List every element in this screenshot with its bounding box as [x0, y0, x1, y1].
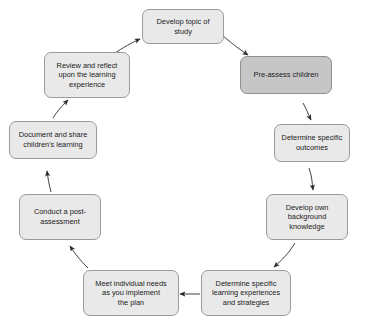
- edge-meet-needs-to-post-assessment: [70, 246, 88, 268]
- node-develop-background-label: Develop own background knowledge: [286, 203, 329, 232]
- node-develop-background[interactable]: Develop own background knowledge: [266, 194, 348, 240]
- node-develop-topic[interactable]: Develop topic of study: [142, 9, 224, 44]
- node-develop-topic-label: Develop topic of study: [147, 17, 219, 36]
- edge-pre-assess-to-determine-outcomes: [303, 103, 311, 120]
- node-pre-assess-label: Pre-assess children: [254, 70, 319, 80]
- edge-post-assessment-to-document-share: [47, 171, 51, 192]
- node-document-share[interactable]: Document and share children's learning: [9, 121, 97, 159]
- node-pre-assess[interactable]: Pre-assess children: [240, 56, 332, 94]
- node-determine-experiences[interactable]: Determine specific learning experiences …: [201, 270, 291, 316]
- edge-develop-topic-to-pre-assess: [223, 36, 248, 55]
- node-document-share-label: Document and share children's learning: [19, 130, 88, 149]
- diagram-connectors: [0, 0, 366, 326]
- node-determine-outcomes-label: Determine specific outcomes: [282, 133, 343, 152]
- edge-document-share-to-review-reflect: [53, 100, 68, 118]
- edge-develop-background-to-determine-experiences: [274, 243, 295, 267]
- node-post-assessment-label: Conduct a post- assessment: [34, 207, 86, 226]
- node-review-reflect[interactable]: Review and reflect upon the learning exp…: [44, 52, 130, 98]
- node-determine-outcomes[interactable]: Determine specific outcomes: [274, 124, 350, 162]
- node-review-reflect-label: Review and reflect upon the learning exp…: [57, 61, 118, 90]
- node-post-assessment[interactable]: Conduct a post- assessment: [19, 194, 101, 240]
- node-meet-needs[interactable]: Meet individual needs as you implement t…: [83, 270, 179, 316]
- diagram-canvas: Develop topic of study Pre-assess childr…: [0, 0, 366, 326]
- node-determine-experiences-label: Determine specific learning experiences …: [212, 279, 280, 308]
- edge-determine-outcomes-to-develop-background: [309, 168, 313, 190]
- node-meet-needs-label: Meet individual needs as you implement t…: [95, 279, 167, 308]
